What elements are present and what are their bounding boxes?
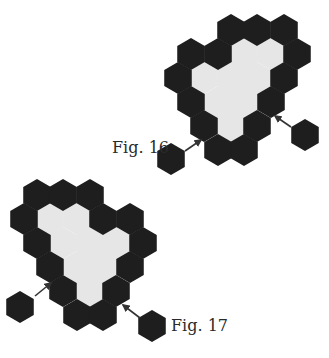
figure-17-label: Fig. 17 [171, 318, 228, 334]
pointer-arrow [275, 116, 291, 127]
figure-16-label: Fig. 16 [112, 140, 169, 156]
loose-hex-tile [138, 310, 166, 342]
pointer-arrow [185, 140, 201, 151]
figure-16-hex-heart [157, 14, 319, 175]
pointer-arrow [123, 305, 140, 318]
loose-hex-tile [291, 119, 319, 151]
figure-canvas [0, 0, 329, 358]
pointer-arrow [35, 283, 51, 296]
figure-17-hex-heart [6, 179, 166, 342]
loose-hex-tile [6, 291, 34, 323]
